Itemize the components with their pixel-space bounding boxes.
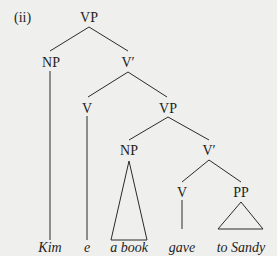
leaf-a-book: a book [110, 240, 149, 255]
leaf-to-sandy: to Sandy [217, 240, 266, 255]
leaf-gave: gave [169, 240, 195, 255]
tree-edges [50, 27, 263, 240]
edge-vbar-v-gave [182, 160, 209, 182]
edge-vp-vbar [89, 27, 128, 51]
node-subject-np: NP [42, 55, 60, 70]
leaf-e: e [84, 240, 90, 255]
tree-canvas: (ii) VP NP V′ V VP NP V′ V PP Kim e a bo… [0, 0, 277, 256]
edge-vp-np [50, 27, 89, 51]
node-object-np: NP [120, 143, 138, 158]
node-vbar-lower: V′ [202, 143, 215, 158]
edge-vp-vbar-lower [168, 117, 209, 140]
node-pp: PP [233, 185, 249, 200]
node-vbar-upper: V′ [121, 55, 134, 70]
edge-vbar-vp [128, 72, 167, 97]
triangle-np-a-book [111, 161, 147, 240]
edge-vbar-v [88, 72, 128, 97]
edge-vp-np-lower [129, 117, 168, 140]
triangle-pp-to-sandy [218, 202, 263, 229]
syntax-tree-diagram: (ii) VP NP V′ V VP NP V′ V PP Kim e a bo… [0, 0, 277, 256]
leaf-kim: Kim [37, 240, 61, 255]
node-v-empty: V [82, 101, 92, 116]
edge-vbar-pp [209, 160, 241, 182]
node-root-vp: VP [80, 10, 98, 25]
example-label: (ii) [14, 10, 31, 26]
node-v-gave: V [177, 185, 187, 200]
node-vp-lower: VP [159, 101, 177, 116]
